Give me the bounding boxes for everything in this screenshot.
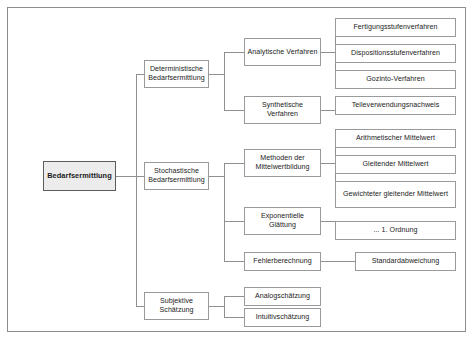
node-dispositionsstufenverfahren[interactable]: Dispositionsstufenverfahren [335,44,456,63]
connector-exponentielle-in [224,221,244,222]
node-teileverwendungsnachweis[interactable]: Teileverwendungsnachweis [335,96,456,115]
connector-subjektiv-out [209,306,224,307]
diagram-canvas: Bedarfsermittlung Deterministische Bedar… [0,0,473,337]
connector-l2-stochastisch [136,176,144,177]
node-arithmetischer-mittelwert[interactable]: Arithmetischer Mittelwert [335,129,456,148]
node-gewichteter-gleitender-mittelwert[interactable]: Gewichteter gleitender Mittelwert [335,181,456,208]
connector-deterministisch-out [209,74,224,75]
connector-deterministisch-spine [224,52,225,110]
connector-exponentielle-out [321,221,335,222]
node-stochastische-bedarfsermittlung[interactable]: Stochastische Bedarfsermittlung [144,162,209,190]
connector-synthetische-in [224,110,244,111]
node-synthetische-verfahren[interactable]: Synthetische Verfahren [244,96,321,124]
connector-standardabweichung-line [321,261,355,262]
connector-mittelwert-out [321,163,335,164]
connector-analytische-out [321,52,335,53]
node-erste-ordnung[interactable]: ... 1. Ordnung [335,221,456,240]
connector-l2-subjektiv [136,306,144,307]
node-standardabweichung[interactable]: Standardabweichung [355,252,456,271]
node-subjektive-schaetzung[interactable]: Subjektive Schätzung [144,292,209,320]
connector-l2-spine [136,74,137,306]
node-gozinto-verfahren[interactable]: Gozinto-Verfahren [335,70,456,89]
node-analytische-verfahren[interactable]: Analytische Verfahren [244,38,321,66]
node-exponentielle-glaettung[interactable]: Exponentielle Glättung [244,207,321,235]
connector-stochastisch-out [209,176,224,177]
node-intuitivschaetzung[interactable]: Intuitivschätzung [244,308,321,327]
connector-mittelwert-in [224,163,244,164]
node-fertigungsstufenverfahren[interactable]: Fertigungsstufenverfahren [335,18,456,37]
connector-l2-deterministisch [136,74,144,75]
node-gleitender-mittelwert[interactable]: Gleitender Mittelwert [335,155,456,174]
node-deterministische-bedarfsermittlung[interactable]: Deterministische Bedarfsermittlung [144,60,209,88]
connector-stochastisch-spine [224,163,225,261]
node-methoden-der-mittelwertbildung[interactable]: Methoden der Mittelwertbildung [244,149,321,177]
connector-analog-in [224,296,244,297]
connector-subjektiv-spine [224,296,225,317]
connector-root-out [116,176,136,177]
connector-analytische-in [224,52,244,53]
connector-fehler-in [224,261,244,262]
connector-intuitiv-in [224,317,244,318]
node-root[interactable]: Bedarfsermittlung [43,161,116,191]
diagram-frame: Bedarfsermittlung Deterministische Bedar… [7,7,466,332]
connector-synthetische-out [321,110,335,111]
node-analogschaetzung[interactable]: Analogschätzung [244,287,321,306]
node-fehlerberechnung[interactable]: Fehlerberechnung [244,252,321,271]
